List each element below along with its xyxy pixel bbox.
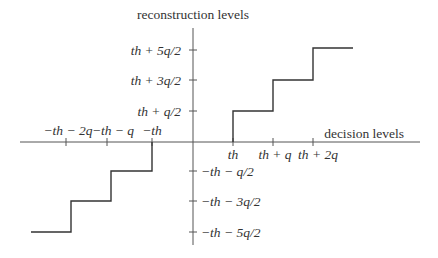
x-tick-label: −th − q [92,123,134,138]
x-tick-label: th [228,147,239,162]
x-tick-label: −th − 2q [44,123,93,138]
y-tick-label: th + 3q/2 [131,73,182,88]
y-tick-label: −th − 3q/2 [201,194,261,209]
y-axis-title: reconstruction levels [137,7,249,22]
y-tick-label: −th − 5q/2 [201,225,261,240]
staircase-negative [31,142,152,232]
x-axis-title: decision levels [324,126,404,141]
x-tick-label: th + q [258,147,291,162]
y-tick-label: −th − q/2 [201,164,254,179]
quantizer-diagram: reconstruction levels decision levels th… [0,0,438,258]
y-tick-label: th + 5q/2 [131,43,182,58]
x-tick-label: −th [142,123,162,138]
y-tick-label: th + q/2 [137,104,181,119]
x-tick-label: th + 2q [298,147,338,162]
